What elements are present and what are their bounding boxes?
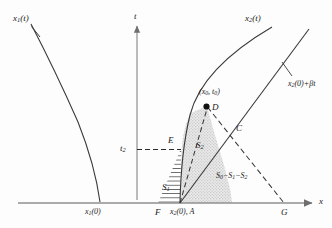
point-D-marker [203,103,209,109]
region-s2-shade [180,106,232,203]
diagram-svg [0,0,332,228]
label-x1-zero: x1(0) [85,208,101,217]
label-point-F: F [155,208,161,217]
axis-group [18,26,312,203]
label-point-D: D [212,103,219,112]
leader-x1 [32,27,41,38]
region-s1-hatch [158,150,181,203]
label-point-C: C [236,124,242,133]
label-apex-coords: (x0, t0) [199,88,220,97]
curve-x1 [31,24,100,202]
label-x2-zero-A: x2(0), A [170,208,195,217]
leader-x2beta [282,62,292,76]
label-region-open: S0−S1−S2 [216,172,247,181]
label-point-E: E [168,136,174,145]
label-point-G: G [281,208,288,217]
label-line-x2-beta: x2(0)+βt [288,80,315,89]
label-curve-x1: x1(t) [13,14,29,24]
label-curve-x2: x2(t) [245,14,261,24]
label-t2: t2 [120,144,126,154]
label-region-s1: S1 [162,183,170,193]
figure-canvas: x1(t) x2(t) x2(0)+βt t x t2 x1(0) F x2(0… [0,0,332,228]
label-region-s2: S2 [196,141,204,151]
label-t-axis: t [134,12,137,21]
label-x-axis: x [319,197,323,206]
